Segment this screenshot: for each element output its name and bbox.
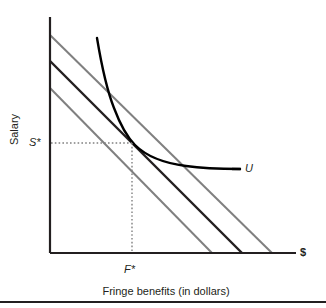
plot-area [0, 0, 326, 308]
isoprofit-line-high [50, 35, 272, 253]
optimal-fringe-label: F* [124, 264, 135, 275]
optimal-salary-label: S* [29, 137, 41, 148]
y-axis-title: Salary [9, 100, 20, 160]
x-axis-end-label: $ [300, 247, 306, 258]
isoprofit-line-tangent [50, 61, 242, 253]
x-axis-title: Fringe benefits (in dollars) [53, 286, 279, 297]
indifference-curve-label: U [245, 163, 253, 174]
economics-figure: Salary Fringe benefits (in dollars) S* F… [0, 0, 326, 308]
figure-bottom-rule [0, 301, 326, 303]
